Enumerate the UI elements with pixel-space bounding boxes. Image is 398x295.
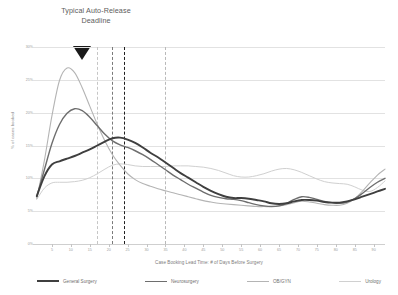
annotation-label: Typical Auto-Release Deadline (26, 6, 166, 25)
x-axis-tick-label: 60 (253, 248, 267, 252)
x-axis-tick-label: 70 (291, 248, 305, 252)
x-axis-tick-label: 40 (177, 248, 191, 252)
x-axis-tick-label: 35 (158, 248, 172, 252)
x-axis-tick-mark (71, 244, 72, 247)
x-axis-tick-label: 45 (196, 248, 210, 252)
series-line (37, 138, 385, 204)
legend-item[interactable]: Neurosurgery (145, 279, 199, 284)
x-axis-tick-mark (260, 244, 261, 247)
x-axis-tick-label: 85 (348, 248, 362, 252)
x-axis-tick-mark (52, 244, 53, 247)
legend-item[interactable]: OB/GYN (247, 279, 291, 284)
x-axis-title: Case Booking Lead Time: # of Days Before… (33, 260, 385, 265)
x-axis-tick-mark (317, 244, 318, 247)
legend-item[interactable]: General Surgery (37, 279, 97, 284)
x-axis-tick-label: 90 (367, 248, 381, 252)
x-axis-tick-label: 30 (140, 248, 154, 252)
x-axis-tick-label: 25 (121, 248, 135, 252)
y-axis-tick-label: 10% (17, 176, 33, 180)
x-axis-tick-mark (336, 244, 337, 247)
annotation-line-2: Deadline (26, 16, 166, 26)
series-line (37, 164, 385, 199)
x-axis-tick-mark (279, 244, 280, 247)
chart-container: Typical Auto-Release Deadline 30%25%20%1… (0, 0, 398, 295)
x-axis-tick-mark (203, 244, 204, 247)
x-axis-tick-mark (128, 244, 129, 247)
x-axis-tick-mark (374, 244, 375, 247)
y-axis-tick-label: 20% (17, 111, 33, 115)
x-axis-tick-mark (109, 244, 110, 247)
legend-swatch (145, 281, 167, 282)
annotation-line-1: Typical Auto-Release (26, 6, 166, 16)
series-line (37, 68, 385, 207)
y-axis-tick-label: 30% (17, 45, 33, 49)
legend-item[interactable]: Urology (339, 279, 381, 284)
x-axis-tick-mark (165, 244, 166, 247)
y-axis-title: % of cases booked (10, 86, 15, 176)
x-axis-tick-label: 15 (83, 248, 97, 252)
legend: General SurgeryNeurosurgeryOB/GYNUrology (33, 274, 385, 288)
y-axis-tick-label: 25% (17, 78, 33, 82)
y-axis-tick-label: 15% (17, 144, 33, 148)
legend-swatch (37, 280, 59, 282)
x-axis-tick-mark (184, 244, 185, 247)
legend-label: Urology (365, 279, 381, 284)
plot-area (33, 47, 385, 244)
x-axis-tick-mark (298, 244, 299, 247)
legend-swatch (247, 281, 269, 282)
x-axis-tick-mark (241, 244, 242, 247)
y-axis-tick-group: 30%25%20%15%10%5%0% (12, 0, 33, 295)
x-axis-tick-label: 65 (272, 248, 286, 252)
y-axis-tick-label: 5% (17, 209, 33, 213)
y-axis-tick-label: 0% (17, 242, 33, 246)
x-axis-tick-label: 80 (329, 248, 343, 252)
x-axis-tick-group: 51015202530354045505560657075808590 (33, 244, 385, 258)
legend-swatch (339, 281, 361, 282)
legend-label: OB/GYN (273, 279, 291, 284)
x-axis-tick-label: 50 (215, 248, 229, 252)
x-axis-tick-mark (222, 244, 223, 247)
legend-label: General Surgery (63, 279, 97, 284)
x-axis-tick-label: 5 (45, 248, 59, 252)
x-axis-tick-label: 20 (102, 248, 116, 252)
series-group (33, 47, 385, 244)
x-axis-tick-label: 55 (234, 248, 248, 252)
series-line (37, 109, 385, 207)
legend-label: Neurosurgery (171, 279, 199, 284)
x-axis-tick-label: 75 (310, 248, 324, 252)
x-axis-tick-mark (147, 244, 148, 247)
x-axis-tick-mark (355, 244, 356, 247)
x-axis-tick-mark (90, 244, 91, 247)
x-axis-tick-label: 10 (64, 248, 78, 252)
